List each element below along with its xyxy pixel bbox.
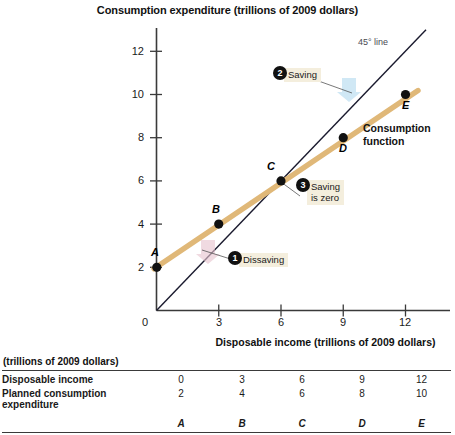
row-label-planned-consumption-line2: expenditure [2,399,59,410]
cell-planned-consumption-b: 4 [212,387,272,412]
table-caption: (trillions of 2009 dollars) [2,356,453,370]
y-tick-label-10: 10 [122,88,144,100]
y-tick-label-2: 2 [122,261,144,273]
cell-disposable-income-e: 12 [392,371,451,387]
callout-text-saving-is-zero-line2: is zero [311,192,339,203]
point-label-e: E [402,99,409,111]
callout-text-saving-is-zero: Saving is zero [307,180,344,205]
cell-disposable-income-c: 6 [272,371,332,387]
data-point-d [339,133,348,142]
point-label-c: C [267,160,275,172]
row-label-planned-consumption-line1: Planned consumption [2,388,106,399]
consumption-function-figure: Consumption expenditure (trillions of 20… [0,0,455,435]
y-tick-label-12: 12 [122,45,144,57]
saving-arrow-icon [337,78,361,102]
cell-disposable-income-d: 9 [332,371,392,387]
cell-planned-consumption-d: 8 [332,387,392,412]
point-label-d: D [339,142,347,154]
data-point-e [401,90,410,99]
x-tick-label-3: 3 [208,316,230,328]
x-axis-label: Disposable income (trillions of 2009 dol… [196,336,455,348]
chart-plot-area [0,0,455,340]
cell-disposable-income-b: 3 [212,371,272,387]
consumption-function-label: Consumption function [363,122,431,147]
key-d: D [332,412,392,432]
callout-text-saving-is-zero-line1: Saving [311,181,340,192]
row-label-disposable-income: Disposable income [2,371,150,387]
cell-planned-consumption-e: 10 [392,387,451,412]
x-tick-label-0: 0 [134,316,156,328]
data-point-a [152,263,161,272]
y-tick-label-6: 6 [122,174,144,186]
callout-dissaving: 1 Dissaving [228,251,288,267]
data-point-b [214,220,223,229]
key-a: A [150,412,212,432]
x-tick-label-9: 9 [332,316,354,328]
data-point-c [276,176,285,185]
x-tick-label-12: 12 [394,316,416,328]
table-bottom-rule [2,432,451,433]
point-label-b: B [212,203,220,215]
x-tick-label-6: 6 [270,316,292,328]
table-row: Planned consumption expenditure 2 4 6 8 … [2,387,451,412]
callout-saving-is-zero: 3 Saving is zero [296,178,344,205]
y-tick-label-4: 4 [122,218,144,230]
row-label-keys-blank [2,412,150,432]
row-label-planned-consumption: Planned consumption expenditure [2,387,150,412]
table-row-keys: A B C D E [2,412,451,432]
cell-planned-consumption-c: 6 [272,387,332,412]
forty-five-degree-line-label: 45° line [358,37,388,47]
callout-badge-2: 2 [273,66,287,80]
key-b: B [212,412,272,432]
y-tick-label-8: 8 [122,131,144,143]
callout-text-dissaving: Dissaving [239,253,288,267]
key-c: C [272,412,332,432]
data-table-section: (trillions of 2009 dollars) Disposable i… [2,356,453,433]
consumption-data-table: Disposable income 0 3 6 9 12 Planned con… [2,370,451,432]
callout-badge-3: 3 [296,178,310,192]
consumption-function-label-line2: function [363,135,404,147]
cell-disposable-income-a: 0 [150,371,212,387]
point-label-a: A [151,246,159,258]
callout-text-saving: Saving [284,68,321,82]
cell-planned-consumption-a: 2 [150,387,212,412]
consumption-function-line [154,91,418,269]
callout-saving: 2 Saving [273,66,321,82]
callout-badge-1: 1 [228,251,242,265]
key-e: E [392,412,451,432]
consumption-function-label-line1: Consumption [363,122,431,134]
table-row: Disposable income 0 3 6 9 12 [2,371,451,387]
